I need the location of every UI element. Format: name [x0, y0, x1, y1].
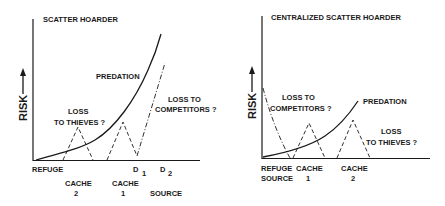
y-axis-label: RISK [246, 93, 258, 119]
cache1-label-line2: 1 [306, 174, 310, 183]
cache2-label-line2: 2 [351, 174, 355, 183]
cache1-label-line1: CACHE [112, 179, 139, 188]
thieves-label-line2: TO THIEVES ? [54, 118, 106, 127]
thieves-label-line1: LOSS [68, 107, 88, 116]
cache1-thieves-curve [293, 123, 325, 158]
cache1-label-line1: CACHE [296, 164, 323, 173]
refuge-label: REFUGE [261, 164, 292, 173]
panel-centralized-scatter-hoarder: CENTRALIZED SCATTER HOARDER RISK PREDATI… [246, 13, 430, 183]
d1-label: D [133, 165, 139, 174]
cache2-label-line1: CACHE [341, 164, 368, 173]
competitors-label-line2: COMPETITORS ? [270, 104, 332, 113]
predation-label: PREDATION [96, 72, 140, 81]
panel-title: CENTRALIZED SCATTER HOARDER [271, 13, 401, 22]
cache1-thieves-curve [107, 122, 137, 160]
panel-title: SCATTER HOARDER [43, 15, 118, 24]
d1-subscript: 1 [142, 169, 146, 178]
up-arrow-icon [249, 66, 255, 92]
thieves-label-line2: TO THIEVES ? [366, 138, 418, 147]
scatter-hoarding-risk-diagram: SCATTER HOARDER RISK PREDATION LOSS TO C… [0, 0, 445, 206]
source-label: SOURCE [150, 189, 182, 198]
up-arrow-icon [20, 68, 26, 94]
competitors-label-line1: LOSS TO [282, 93, 315, 102]
thieves-label-line1: LOSS [381, 127, 401, 136]
panel-scatter-hoarder: SCATTER HOARDER RISK PREDATION LOSS TO C… [17, 15, 217, 198]
predation-curve [36, 34, 161, 160]
d2-label: D [160, 165, 166, 174]
y-axis-label: RISK [17, 95, 29, 121]
source-label: SOURCE [261, 174, 293, 183]
competitors-label-line1: LOSS TO [168, 95, 201, 104]
d2-subscript: 2 [168, 169, 172, 178]
refuge-label: REFUGE [32, 165, 63, 174]
predation-label: PREDATION [363, 97, 407, 106]
competitors-label-line2: COMPETITORS ? [155, 105, 217, 114]
cache2-label-line2: 2 [74, 189, 78, 198]
cache1-label-line2: 1 [121, 189, 125, 198]
cache2-label-line1: CACHE [65, 179, 92, 188]
